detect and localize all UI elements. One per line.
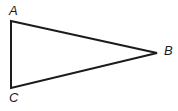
vertex-label-b: B	[164, 44, 173, 57]
triangle-diagram-svg	[0, 0, 178, 111]
triangle-outline	[11, 21, 157, 88]
triangle-figure: A B C	[0, 0, 178, 111]
vertex-label-c: C	[9, 91, 18, 104]
vertex-label-a: A	[9, 4, 18, 17]
